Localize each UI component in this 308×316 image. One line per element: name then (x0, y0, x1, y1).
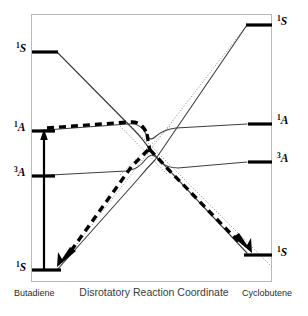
label-cyclobutene-1S-bottom-letter: S (281, 246, 287, 258)
label-cyclobutene-1A-letter: A (280, 114, 289, 126)
label-butadiene-1A-letter: A (17, 121, 26, 133)
label-cyclobutene-1S-top-letter: S (281, 15, 287, 27)
diagram-canvas: 1S 1A 3A 1S 1S 1A 3A 1S (0, 0, 308, 316)
axis-caption-reaction-coordinate: Disrotatory Reaction Coordinate (79, 286, 229, 298)
label-butadiene-1S-bottom-letter: S (20, 261, 26, 273)
axis-caption-cyclobutene: Cyclobutene (242, 288, 292, 298)
axis-caption-butadiene: Butadiene (14, 288, 55, 298)
label-butadiene-3A-letter: A (17, 166, 26, 178)
label-cyclobutene-3A-letter: A (280, 152, 289, 164)
state-correlation-diagram: 1S 1A 3A 1S 1S 1A 3A 1S (0, 0, 308, 316)
label-butadiene-1S-top-letter: S (20, 42, 26, 54)
